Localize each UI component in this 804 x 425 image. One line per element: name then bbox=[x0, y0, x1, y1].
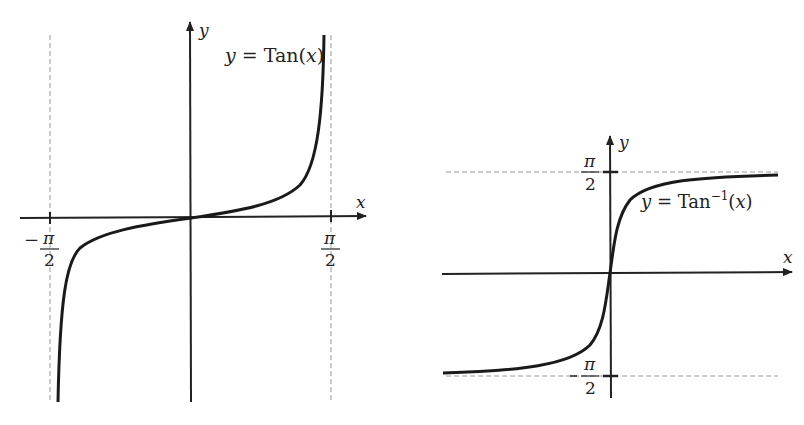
tan-equation-label: y = Tan(x) bbox=[224, 44, 324, 66]
tan-plot: y x y = Tan(x) − π 2 π 2 bbox=[20, 20, 366, 402]
svg-text:π: π bbox=[583, 354, 596, 374]
svg-text:π: π bbox=[42, 228, 55, 248]
x-axis bbox=[442, 272, 792, 274]
trig-figure: y x y = Tan(x) − π 2 π 2 y x bbox=[0, 0, 804, 425]
neg-pi-half-label: − π 2 bbox=[24, 228, 59, 270]
neg-pi-half-label: π 2 bbox=[570, 354, 599, 398]
svg-text:−: − bbox=[24, 229, 39, 250]
svg-text:2: 2 bbox=[585, 378, 596, 398]
svg-text:π: π bbox=[583, 151, 596, 171]
x-axis-label: x bbox=[356, 192, 366, 212]
y-axis bbox=[190, 22, 191, 402]
y-axis-label: y bbox=[198, 20, 209, 40]
svg-text:2: 2 bbox=[585, 174, 596, 194]
svg-text:π: π bbox=[323, 228, 336, 248]
arctan-plot: y x y = Tan−1(x) π 2 π 2 bbox=[442, 132, 793, 398]
x-axis-label: x bbox=[783, 247, 793, 267]
arctan-equation-label: y = Tan−1(x) bbox=[640, 189, 753, 212]
svg-text:2: 2 bbox=[325, 250, 336, 270]
pi-half-label: π 2 bbox=[581, 151, 599, 194]
pi-half-label: π 2 bbox=[321, 228, 340, 270]
svg-text:2: 2 bbox=[44, 250, 55, 270]
y-axis-label: y bbox=[618, 132, 629, 152]
